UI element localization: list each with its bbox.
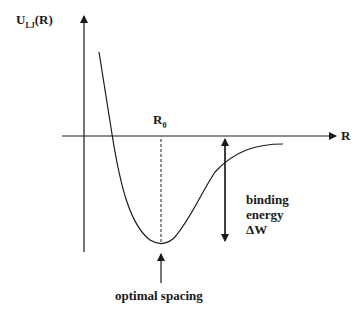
optimal-spacing-label: optimal spacing: [115, 289, 203, 302]
y-axis-label-main: U: [16, 12, 25, 27]
y-axis-label-sub: LJ: [25, 21, 34, 30]
binding-label-line3: ΔW: [246, 222, 289, 237]
binding-label-line1: binding: [246, 192, 289, 207]
x-axis-label: R: [341, 129, 350, 142]
binding-label-line2: energy: [246, 207, 289, 222]
r0-label-main: R: [153, 112, 162, 127]
r0-label-sub: 0: [162, 121, 166, 130]
y-axis-label: ULJ(R): [16, 13, 53, 30]
diagram-canvas: [0, 0, 363, 316]
binding-energy-label: binding energy ΔW: [246, 192, 289, 237]
y-axis-label-suffix: (R): [35, 12, 53, 27]
r0-label: R0: [153, 113, 166, 130]
